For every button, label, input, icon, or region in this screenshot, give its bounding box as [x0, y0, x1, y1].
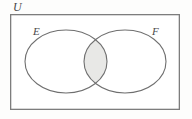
universal-set-label: U: [13, 1, 22, 13]
set-label-e: E: [33, 26, 40, 37]
venn-diagram-figure: U E F: [0, 0, 192, 119]
set-label-f: F: [152, 26, 159, 37]
venn-diagram-canvas: [0, 0, 192, 119]
